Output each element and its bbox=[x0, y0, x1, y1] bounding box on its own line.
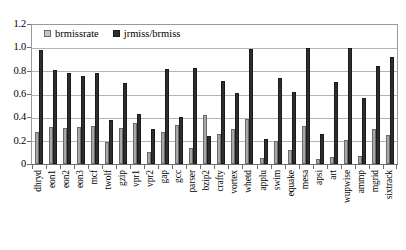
bars-container bbox=[32, 25, 397, 164]
y-axis-tick-label: 0.4 bbox=[0, 112, 26, 122]
bar-jrmiss-brmiss bbox=[235, 93, 239, 164]
x-axis-tick-label: sixtrack bbox=[385, 170, 395, 199]
bar-jrmiss-brmiss bbox=[95, 73, 99, 165]
x-axis-label-cell: mgrid bbox=[369, 170, 383, 246]
bar-jrmiss-brmiss bbox=[306, 48, 310, 164]
bar-jrmiss-brmiss bbox=[109, 120, 113, 164]
x-axis-tick-label: applu bbox=[259, 170, 269, 191]
bar-jrmiss-brmiss bbox=[348, 48, 352, 164]
x-axis-label-cell: mesa bbox=[299, 170, 313, 246]
bar-group bbox=[369, 25, 383, 164]
bar-group bbox=[257, 25, 271, 164]
x-axis-tick-mark bbox=[172, 165, 186, 169]
x-axis-tick-label: mesa bbox=[301, 170, 311, 189]
bar-group bbox=[74, 25, 88, 164]
x-axis-tick-label: eon2 bbox=[62, 170, 72, 188]
x-axis-tick-mark bbox=[88, 165, 102, 169]
x-axis-tick-mark bbox=[102, 165, 116, 169]
x-axis-tick-mark bbox=[158, 165, 172, 169]
x-axis-tick-mark bbox=[186, 165, 200, 169]
x-axis-label-cell: gzip bbox=[116, 170, 130, 246]
bar-group bbox=[172, 25, 186, 164]
x-axis-tick-label: ammp bbox=[357, 170, 367, 193]
bar-group bbox=[242, 25, 256, 164]
bar-group bbox=[144, 25, 158, 164]
x-axis-label-cell: swim bbox=[271, 170, 285, 246]
x-axis-tick-mark bbox=[144, 165, 158, 169]
x-axis-tick-label: gzip bbox=[118, 170, 128, 186]
x-axis-tick-label: twolf bbox=[104, 170, 114, 190]
bar-group bbox=[341, 25, 355, 164]
x-axis-tick-label: mgrid bbox=[371, 170, 381, 192]
x-axis-label-cell: sixtrack bbox=[383, 170, 397, 246]
x-axis-label-cell: vortex bbox=[228, 170, 242, 246]
x-axis-label-cell: art bbox=[327, 170, 341, 246]
bar-group bbox=[32, 25, 46, 164]
y-axis-tick-label: 0.2 bbox=[0, 136, 26, 146]
bar-group bbox=[271, 25, 285, 164]
bar-group bbox=[158, 25, 172, 164]
bar-group bbox=[228, 25, 242, 164]
legend-swatch-icon bbox=[44, 30, 51, 37]
x-axis-label-cell: eon1 bbox=[46, 170, 60, 246]
x-axis-tick-mark bbox=[214, 165, 228, 169]
y-axis-tick-label: 0.8 bbox=[0, 66, 26, 76]
bar-jrmiss-brmiss bbox=[193, 68, 197, 164]
bar-jrmiss-brmiss bbox=[207, 136, 211, 164]
bar-group bbox=[60, 25, 74, 164]
x-axis-label-cell: equake bbox=[285, 170, 299, 246]
bar-group bbox=[355, 25, 369, 164]
y-axis-tick-label: 1.2 bbox=[0, 19, 26, 29]
bar-jrmiss-brmiss bbox=[249, 49, 253, 164]
bar-jrmiss-brmiss bbox=[53, 70, 57, 164]
legend-label: jrmiss/brmiss bbox=[124, 28, 181, 39]
x-axis-label-cell: eon2 bbox=[60, 170, 74, 246]
x-axis-tick-label: apsi bbox=[315, 170, 325, 185]
x-axis-tick-mark bbox=[228, 165, 242, 169]
bar-jrmiss-brmiss bbox=[221, 81, 225, 164]
bar-jrmiss-brmiss bbox=[390, 57, 394, 164]
x-axis-tick-label: vpr1 bbox=[132, 170, 142, 187]
bar-group bbox=[327, 25, 341, 164]
x-axis-labels: dhrydeon1eon2eon3mcftwolfgzipvpr1vpr2gap… bbox=[32, 170, 397, 246]
bar-jrmiss-brmiss bbox=[334, 82, 338, 164]
x-axis-tick-label: gap bbox=[161, 170, 171, 183]
x-axis-tick-mark bbox=[271, 165, 285, 169]
x-axis-label-cell: gcc bbox=[172, 170, 186, 246]
bar-group bbox=[299, 25, 313, 164]
x-axis-tick-mark bbox=[355, 165, 369, 169]
x-axis-tick-label: whetd bbox=[245, 170, 255, 193]
x-axis-tick-mark bbox=[74, 165, 88, 169]
chart-legend: brmissratejrmiss/brmiss bbox=[44, 28, 180, 39]
bar-jrmiss-brmiss bbox=[264, 139, 268, 164]
x-axis-tick-mark bbox=[46, 165, 60, 169]
x-axis-tick-mark bbox=[369, 165, 383, 169]
legend-item: brmissrate bbox=[44, 28, 99, 39]
x-axis-tick-mark bbox=[285, 165, 299, 169]
bar-group bbox=[186, 25, 200, 164]
x-axis-tick-mark bbox=[313, 165, 327, 169]
x-axis-tick-label: wupwise bbox=[343, 170, 353, 203]
x-axis-tick-mark bbox=[341, 165, 355, 169]
bar-jrmiss-brmiss bbox=[362, 98, 366, 164]
x-axis-tick-mark bbox=[116, 165, 130, 169]
bar-group bbox=[102, 25, 116, 164]
x-axis-label-cell: vpr2 bbox=[144, 170, 158, 246]
x-axis-tick-label: equake bbox=[287, 170, 297, 196]
x-axis-label-cell: ammp bbox=[355, 170, 369, 246]
y-axis-tick-label: 1.0 bbox=[0, 42, 26, 52]
x-axis-ticks bbox=[32, 165, 397, 169]
bar-jrmiss-brmiss bbox=[67, 73, 71, 165]
legend-label: brmissrate bbox=[55, 28, 99, 39]
x-axis-tick-label: vortex bbox=[231, 170, 241, 194]
x-axis-label-cell: gap bbox=[158, 170, 172, 246]
x-axis-label-cell: parser bbox=[186, 170, 200, 246]
x-axis-tick-mark bbox=[60, 165, 74, 169]
x-axis-label-cell: mcf bbox=[88, 170, 102, 246]
y-axis-tick-label: 0 bbox=[0, 159, 26, 169]
bar-group bbox=[383, 25, 397, 164]
x-axis-tick-mark bbox=[327, 165, 341, 169]
x-axis-label-cell: bzip2 bbox=[200, 170, 214, 246]
bar-chart: 00.20.40.60.81.01.2 dhrydeon1eon2eon3mcf… bbox=[0, 0, 406, 250]
x-axis-label-cell: wupwise bbox=[341, 170, 355, 246]
